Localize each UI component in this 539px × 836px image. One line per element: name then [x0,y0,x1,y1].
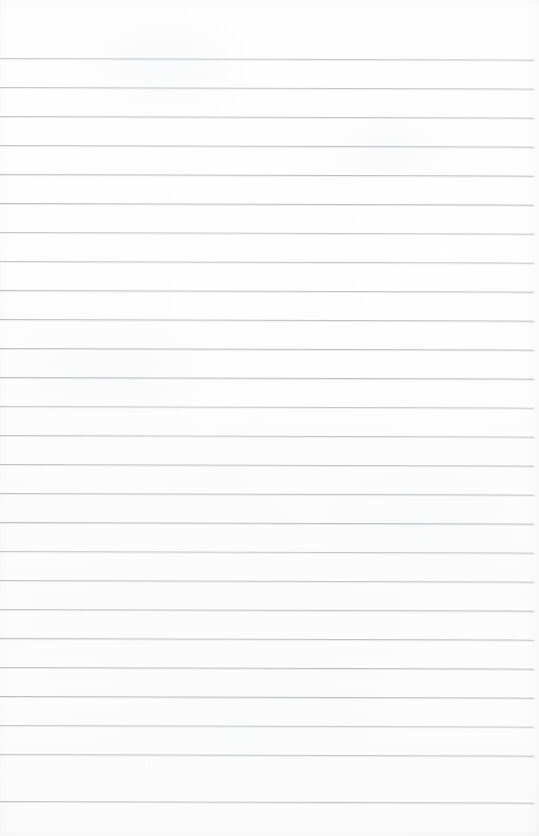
scanned-page [0,0,539,836]
writing-area[interactable] [0,58,534,802]
